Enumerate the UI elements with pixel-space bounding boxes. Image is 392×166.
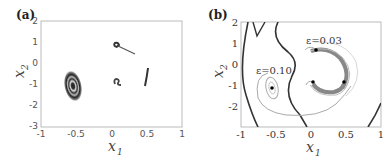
ytick: 1 xyxy=(32,37,38,47)
xtick: -0.5 xyxy=(67,129,85,139)
ytick: 0 xyxy=(32,58,38,68)
x-axis-sub: 1 xyxy=(315,148,321,158)
xtick: -1 xyxy=(236,129,246,140)
x-axis-label: x xyxy=(306,139,314,155)
x-axis-label: x xyxy=(108,138,116,154)
annotation-eps-010: ε=0.10 xyxy=(256,65,292,76)
ytick: 2 xyxy=(232,17,238,28)
panel-a: (a) xyxy=(0,0,196,166)
xtick: 0.5 xyxy=(338,129,354,140)
y-axis-sub: 2 xyxy=(20,64,30,71)
y-axis-label: x xyxy=(210,70,226,78)
xtick: 1 xyxy=(378,129,384,140)
panel-b: (b) xyxy=(196,0,392,166)
xtick: 1 xyxy=(179,129,185,139)
point xyxy=(342,80,346,84)
ytick: -1 xyxy=(29,79,38,89)
ytick: -2 xyxy=(29,100,38,110)
annotation-eps-003: ε=0.03 xyxy=(306,35,342,46)
axes-box-a xyxy=(41,21,182,127)
ytick: 2 xyxy=(32,16,38,26)
panel-b-plot: ε=0.10 ε=0.03 -1 -0.5 0 0.5 1 2 1 0 -1 -… xyxy=(196,0,392,166)
panel-a-plot: -1 -0.5 0 0.5 1 2 1 0 -1 -2 -3 x 1 x 2 xyxy=(0,0,196,166)
x-axis-sub: 1 xyxy=(117,147,123,157)
point xyxy=(311,80,315,84)
xtick: 0.5 xyxy=(140,129,154,139)
ytick: -3 xyxy=(29,121,38,131)
xtick: -0.5 xyxy=(266,129,285,140)
ytick: -2 xyxy=(228,101,238,112)
point xyxy=(270,86,274,90)
point xyxy=(314,48,318,52)
y-axis-sub: 2 xyxy=(219,64,229,71)
y-axis-label: x xyxy=(11,70,27,78)
ytick: -1 xyxy=(228,80,238,91)
ytick: 1 xyxy=(232,38,238,49)
ytick: 0 xyxy=(232,59,238,70)
